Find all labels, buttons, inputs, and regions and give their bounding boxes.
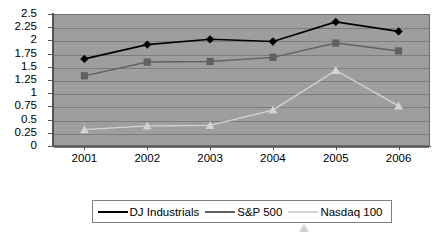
y-axis-tick-labels: 2.52.2521.751.51.2510.750.50.250 [0, 0, 47, 237]
y-axis-tick-mark [48, 120, 52, 121]
y-axis-tick-mark [48, 80, 52, 81]
data-point-square [206, 58, 213, 65]
y-axis-tick-mark [48, 14, 52, 15]
triangle-marker-icon [299, 207, 309, 225]
y-axis-tick-mark [48, 106, 52, 107]
x-axis-tick-mark [210, 146, 211, 150]
data-point-square [269, 54, 276, 61]
y-axis-tick-label: 0.5 [21, 114, 37, 125]
legend-item-sp-500: S&P 500 [205, 206, 286, 218]
series-line-dj-industrials [84, 22, 398, 59]
y-axis-tick-mark [48, 67, 52, 68]
x-axis-tick-label: 2002 [134, 152, 160, 164]
legend-label-nasdaq-100: Nasdaq 100 [320, 206, 382, 218]
y-axis-tick-label: 1 [31, 87, 37, 98]
legend-key-nasdaq-100 [288, 206, 318, 218]
legend-key-sp-500 [205, 206, 235, 218]
data-point-diamond [80, 55, 88, 63]
y-axis-tick-label: 1.5 [21, 61, 37, 72]
chart-container: 2.52.2521.751.51.2510.750.50.250 2001200… [0, 0, 447, 237]
x-axis-line [52, 146, 431, 147]
data-point-square [144, 58, 151, 65]
y-axis-tick-label: 0.75 [15, 100, 37, 111]
data-point-diamond [143, 40, 151, 48]
y-axis-tick-mark [48, 40, 52, 41]
y-axis-tick-mark [48, 146, 52, 147]
y-axis-tick-mark [48, 27, 52, 28]
data-point-diamond [394, 27, 402, 35]
legend-key-dj-industrials [98, 206, 128, 218]
gridline [54, 147, 429, 148]
series-plot [53, 14, 430, 146]
y-axis-tick-mark [48, 93, 52, 94]
legend-label-dj-industrials: DJ Industrials [130, 206, 200, 218]
y-axis-tick-label: 0.25 [15, 127, 37, 138]
series-line-nasdaq-100 [84, 71, 398, 130]
x-axis-tick-mark [399, 146, 400, 150]
legend-item-dj-industrials: DJ Industrials [98, 206, 204, 218]
y-axis-tick-mark [48, 54, 52, 55]
data-point-square [81, 72, 88, 79]
data-point-diamond [206, 35, 214, 43]
x-axis-tick-mark [84, 146, 85, 150]
y-axis-tick-label: 1.25 [15, 74, 37, 85]
y-axis-tick-mark [48, 133, 52, 134]
x-axis-tick-mark [336, 146, 337, 150]
data-point-triangle [331, 66, 340, 74]
x-axis-tick-label: 2001 [72, 152, 98, 164]
y-axis-tick-label: 2.5 [21, 8, 37, 19]
x-axis-tick-mark [273, 146, 274, 150]
x-axis-tick-mark [147, 146, 148, 150]
chart-legend: DJ Industrials S&P 500 Nasdaq 100 [92, 200, 392, 223]
data-point-triangle [269, 106, 278, 114]
legend-label-sp-500: S&P 500 [237, 206, 282, 218]
data-point-diamond [332, 18, 340, 26]
y-axis-tick-label: 2 [31, 34, 37, 45]
x-axis-tick-label: 2006 [386, 152, 412, 164]
data-point-square [395, 47, 402, 54]
data-point-square [332, 39, 339, 46]
legend-item-nasdaq-100: Nasdaq 100 [288, 206, 386, 218]
y-axis-tick-label: 0 [31, 140, 37, 151]
y-axis-tick-label: 2.25 [15, 21, 37, 32]
data-point-diamond [269, 37, 277, 45]
x-axis-tick-label: 2005 [323, 152, 349, 164]
x-axis-tick-label: 2004 [260, 152, 286, 164]
y-axis-tick-label: 1.75 [15, 48, 37, 59]
data-point-triangle [394, 101, 403, 109]
x-axis-tick-label: 2003 [197, 152, 223, 164]
